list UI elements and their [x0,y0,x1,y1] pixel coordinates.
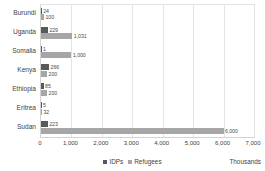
bar-rect [41,64,49,70]
bar-value-label: 1 [43,46,46,52]
gridline [254,5,255,137]
bar-idps[interactable]: 85 [41,83,51,89]
legend-swatch-icon [128,160,132,164]
bar-refugees[interactable]: 200 [41,90,57,96]
x-tick-label: 5,000 [185,139,200,148]
bar-idps[interactable]: 223 [41,121,58,127]
x-tick-label: 0 [38,139,41,148]
category-label-ethiopia: Ethiopia [12,85,36,93]
bar-value-label: 32 [43,109,49,115]
bar-refugees[interactable]: 200 [41,71,57,77]
legend-label: Refugees [134,158,161,166]
bar-rect [41,109,42,115]
category-label-uganda: Uganda [13,28,36,36]
bar-idps[interactable]: 266 [41,64,59,70]
x-axis-tick-labels: 01,0002,0003,0004,0005,0006,0007,000 [40,139,255,149]
x-tick-label: 4,000 [154,139,169,148]
bar-value-label: 1,031 [74,33,87,39]
x-tick-label: 3,000 [124,139,139,148]
y-axis-category-labels: BurundiUgandaSomaliaKenyaEthiopiaEritrea… [0,4,38,138]
bar-rows: 241002291,03111,000266200852005322236,00… [41,5,254,137]
bar-value-label: 200 [49,71,58,77]
bar-value-label: 24 [43,8,49,14]
bar-idps[interactable]: 24 [41,8,49,14]
plot-area: 241002291,03111,000266200852005322236,00… [40,4,255,138]
x-tick-label: 6,000 [215,139,230,148]
x-tick-label: 7,000 [245,139,260,148]
bar-value-label: 85 [45,83,51,89]
category-label-sudan: Sudan [17,123,36,131]
bar-value-label: 1,000 [73,52,86,58]
bar-refugees[interactable]: 100 [41,14,54,20]
bar-rect [41,83,44,89]
bar-refugees[interactable]: 1,000 [41,52,86,58]
bar-rect [41,90,47,96]
bar-group: 85200 [41,80,254,99]
bar-value-label: 6,000 [225,128,238,134]
bar-rect [41,102,42,108]
bar-value-label: 223 [49,121,58,127]
category-label-kenya: Kenya [17,66,36,74]
bar-rect [41,121,48,127]
bar-idps[interactable]: 5 [41,102,46,108]
bar-rect [41,33,72,39]
bar-value-label: 266 [51,64,60,70]
bar-idps[interactable]: 1 [41,46,46,52]
bar-rect [41,52,71,58]
bar-rect [41,46,42,52]
bar-group: 2236,000 [41,118,254,137]
units-note: Thousands [229,157,261,166]
category-label-eritrea: Eritrea [17,104,36,112]
chart-legend: IDPsRefugees [0,156,265,168]
bar-value-label: 229 [49,27,58,33]
bar-value-label: 100 [46,14,55,20]
bar-group: 11,000 [41,43,254,62]
legend-label: IDPs [109,158,123,166]
bar-rect [41,128,224,134]
category-label-burundi: Burundi [13,9,36,17]
bar-rect [41,71,47,77]
legend-item-idps[interactable]: IDPs [103,158,123,166]
bar-refugees[interactable]: 1,031 [41,33,87,39]
bar-rect [41,14,44,20]
legend-item-refugees[interactable]: Refugees [128,158,161,166]
category-label-somalia: Somalia [12,47,36,55]
bar-group: 2291,031 [41,24,254,43]
bar-group: 532 [41,99,254,118]
bar-refugees[interactable]: 6,000 [41,128,238,134]
bar-idps[interactable]: 229 [41,27,58,33]
bar-chart: BurundiUgandaSomaliaKenyaEthiopiaEritrea… [0,0,265,171]
bar-group: 266200 [41,62,254,81]
bar-rect [41,8,42,14]
bar-group: 24100 [41,5,254,24]
x-tick-label: 2,000 [93,139,108,148]
bar-rect [41,27,48,33]
x-tick-label: 1,000 [63,139,78,148]
bar-refugees[interactable]: 32 [41,109,49,115]
bar-value-label: 200 [49,90,58,96]
legend-swatch-icon [103,160,107,164]
bar-value-label: 5 [43,102,46,108]
